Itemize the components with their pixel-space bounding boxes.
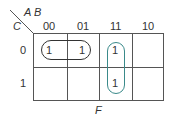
- function-label: F: [95, 104, 102, 116]
- row-header-1: 1: [20, 77, 26, 89]
- row-header-0: 0: [20, 44, 26, 56]
- cell-c0-ab11: 1: [110, 44, 120, 56]
- cell-c0-ab00: 1: [44, 44, 54, 56]
- grid-divider: [34, 67, 163, 68]
- column-variables-label: A B: [24, 6, 41, 18]
- cell-c0-ab01: 1: [77, 44, 87, 56]
- cell-c1-ab11: 1: [110, 77, 120, 89]
- col-header-10: 10: [142, 20, 154, 32]
- col-header-00: 00: [43, 20, 55, 32]
- row-variable-label: C: [13, 20, 21, 32]
- col-header-01: 01: [77, 20, 89, 32]
- col-header-11: 11: [110, 20, 121, 32]
